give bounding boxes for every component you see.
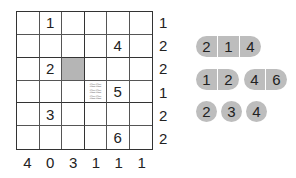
column-clue: 3 <box>62 151 85 173</box>
ship-segment: 6 <box>266 69 287 90</box>
cell-r0-c4[interactable] <box>107 12 130 35</box>
row-clue: 2 <box>159 57 179 80</box>
ship-length-2: 1 2 <box>196 69 239 90</box>
cell-r1-c5[interactable] <box>130 35 153 58</box>
ship-length-1: 3 <box>221 101 242 122</box>
cell-r1-c4[interactable]: 4 <box>107 35 130 58</box>
cell-r3-c0[interactable] <box>17 81 40 104</box>
cell-r2-c1[interactable]: 2 <box>40 58 63 81</box>
row-clue: 2 <box>159 34 179 57</box>
row-clue: 1 <box>159 11 179 34</box>
cell-r2-c0[interactable] <box>17 58 40 81</box>
cell-r2-c4[interactable] <box>107 58 130 81</box>
cell-r4-c2[interactable] <box>62 103 85 126</box>
cell-r3-c2[interactable] <box>62 81 85 104</box>
ship-segment: 2 <box>196 101 217 122</box>
ship-segment: 4 <box>246 101 267 122</box>
cell-r5-c4[interactable]: 6 <box>107 126 130 149</box>
cell-r0-c0[interactable] <box>17 12 40 35</box>
cell-r3-c1[interactable] <box>40 81 63 104</box>
ship-segment: 2 <box>218 69 239 90</box>
column-clue: 1 <box>85 151 108 173</box>
cell-r5-c1[interactable] <box>40 126 63 149</box>
ship-length-2: 4 6 <box>244 69 287 90</box>
cell-r1-c1[interactable] <box>40 35 63 58</box>
cell-r4-c4[interactable] <box>107 103 130 126</box>
column-clue: 0 <box>39 151 62 173</box>
cell-r3-c4[interactable]: 5 <box>107 81 130 104</box>
cell-r0-c2[interactable] <box>62 12 85 35</box>
row-clue: 1 <box>159 80 179 103</box>
water-wave-icon: ≈≈≈≈≈≈ <box>89 82 101 100</box>
cell-r3-c5[interactable] <box>130 81 153 104</box>
ship-segment: 1 <box>196 69 217 90</box>
cell-r1-c2[interactable] <box>62 35 85 58</box>
shaded-ship-cell[interactable] <box>62 58 85 81</box>
ship-segment: 1 <box>218 36 239 57</box>
cell-r4-c0[interactable] <box>17 103 40 126</box>
cell-r1-c0[interactable] <box>17 35 40 58</box>
row-clue: 2 <box>159 104 179 127</box>
ship-segment: 2 <box>196 36 217 57</box>
ship-segment: 4 <box>240 36 261 57</box>
ship-segment: 3 <box>221 101 242 122</box>
ship-length-1: 2 <box>196 101 217 122</box>
row-clue: 2 <box>159 127 179 150</box>
column-clue: 1 <box>130 151 153 173</box>
cell-r4-c1[interactable]: 3 <box>40 103 63 126</box>
cell-r0-c3[interactable] <box>85 12 108 35</box>
ship-length-1: 4 <box>246 101 267 122</box>
cell-r2-c3[interactable] <box>85 58 108 81</box>
puzzle-grid: 1 4 2 ≈≈≈≈≈≈ 5 3 6 <box>16 11 153 150</box>
column-clues: 4 0 3 1 1 1 <box>16 151 153 173</box>
ship-length-3: 2 1 4 <box>196 36 261 57</box>
cell-r5-c0[interactable] <box>17 126 40 149</box>
cell-r5-c3[interactable] <box>85 126 108 149</box>
cell-r5-c5[interactable] <box>130 126 153 149</box>
cell-r4-c3[interactable] <box>85 103 108 126</box>
row-clues: 1 2 2 1 2 2 <box>159 11 179 150</box>
water-cell[interactable]: ≈≈≈≈≈≈ <box>85 81 108 104</box>
cell-r2-c5[interactable] <box>130 58 153 81</box>
column-clue: 4 <box>16 151 39 173</box>
ship-segment: 4 <box>244 69 265 90</box>
cell-r0-c1[interactable]: 1 <box>40 12 63 35</box>
cell-r1-c3[interactable] <box>85 35 108 58</box>
cell-r5-c2[interactable] <box>62 126 85 149</box>
cell-r0-c5[interactable] <box>130 12 153 35</box>
cell-r4-c5[interactable] <box>130 103 153 126</box>
column-clue: 1 <box>107 151 130 173</box>
